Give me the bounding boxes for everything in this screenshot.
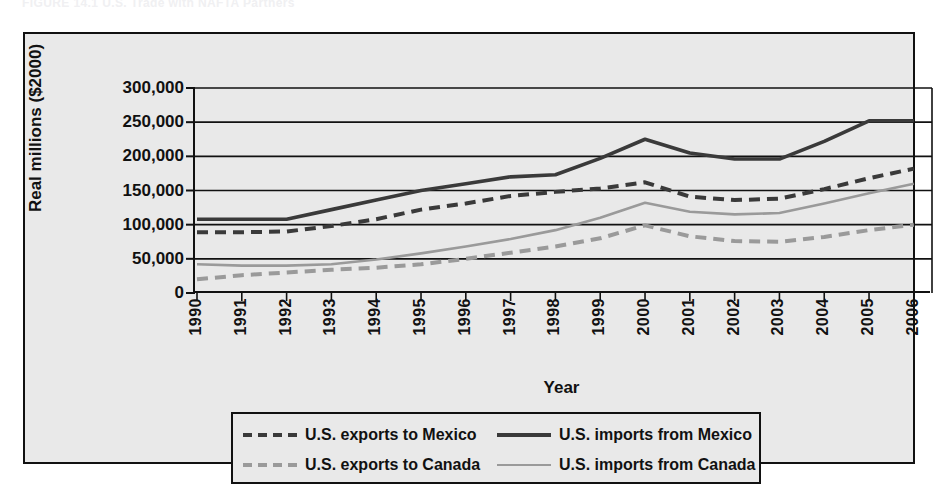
y-tick-label: 150,000: [74, 182, 184, 199]
x-tick-label: 1995: [411, 298, 429, 336]
chart-legend: U.S. exports to Mexico U.S. imports from…: [231, 412, 761, 484]
legend-swatch-solid-light: [497, 464, 551, 467]
x-tick-label: 1994: [366, 298, 384, 336]
x-tick-label: 2006: [904, 298, 922, 336]
y-tick-label: 250,000: [74, 113, 184, 130]
x-axis-tick-labels: 1990199119921993199419951996199719981999…: [193, 298, 930, 378]
y-tick-marks: [186, 88, 195, 293]
legend-item-us-imports-from-mexico: U.S. imports from Mexico: [497, 426, 749, 444]
figure-caption: FIGURE 14.1 U.S. Trade with NAFTA Partne…: [22, 0, 442, 10]
plot-svg: [195, 88, 932, 293]
x-tick-label: 1997: [501, 298, 519, 336]
x-tick-label: 1990: [187, 298, 205, 336]
legend-row-2: U.S. exports to Canada U.S. imports from…: [243, 450, 749, 480]
legend-label: U.S. exports to Canada: [305, 456, 480, 474]
legend-row-1: U.S. exports to Mexico U.S. imports from…: [243, 420, 749, 450]
plot-area: [193, 88, 930, 293]
legend-item-us-imports-from-canada: U.S. imports from Canada: [497, 456, 749, 474]
figure-frame: Real millions ($2000) 050,000100,000150,…: [23, 32, 915, 464]
x-tick-label: 2002: [725, 298, 743, 336]
legend-item-us-exports-to-canada: U.S. exports to Canada: [243, 456, 497, 474]
y-tick-label: 200,000: [74, 147, 184, 164]
x-tick-label: 2000: [635, 298, 653, 336]
legend-swatch-dashed-light: [243, 458, 297, 472]
legend-label: U.S. imports from Canada: [559, 456, 755, 474]
data-series: [197, 121, 914, 280]
y-tick-label: 0: [74, 284, 184, 301]
legend-item-us-exports-to-mexico: U.S. exports to Mexico: [243, 426, 497, 444]
series-line-u-s-imports-from-mexico: [197, 121, 914, 219]
x-tick-label: 1993: [321, 298, 339, 336]
x-tick-label: 1999: [590, 298, 608, 336]
series-line-u-s-exports-to-mexico: [197, 169, 914, 233]
x-tick-label: 2003: [769, 298, 787, 336]
legend-label: U.S. exports to Mexico: [305, 426, 477, 444]
x-axis-title: Year: [193, 378, 930, 398]
y-axis-tick-labels: 050,000100,000150,000200,000250,000300,0…: [60, 88, 184, 293]
y-tick-label: 300,000: [74, 79, 184, 96]
x-tick-label: 2005: [859, 298, 877, 336]
x-tick-label: 2004: [814, 298, 832, 336]
y-tick-label: 100,000: [74, 216, 184, 233]
y-tick-label: 50,000: [74, 250, 184, 267]
x-tick-label: 1996: [456, 298, 474, 336]
figure-root: FIGURE 14.1 U.S. Trade with NAFTA Partne…: [0, 0, 940, 490]
x-tick-label: 1998: [545, 298, 563, 336]
x-tick-label: 1991: [232, 298, 250, 336]
x-tick-label: 2001: [680, 298, 698, 336]
x-tick-label: 1992: [277, 298, 295, 336]
y-axis-title: Real millions ($2000): [26, 13, 46, 243]
series-line-u-s-exports-to-canada: [197, 225, 914, 280]
legend-swatch-solid-dark: [497, 433, 551, 437]
legend-label: U.S. imports from Mexico: [559, 426, 752, 444]
legend-swatch-dashed-dark: [243, 428, 297, 442]
